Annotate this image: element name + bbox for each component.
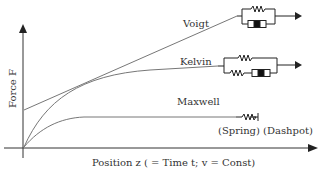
maxwell-label: Maxwell [177,96,220,107]
y-axis-arrow-icon [19,24,27,33]
x-axis [4,144,318,152]
x-axis-label: Position z ( = Time t; v = Const) [92,157,255,168]
viscoelastic-models-diagram: Voigt Kelvin Maxwell (Spring) (Dashpot) … [0,0,330,170]
y-axis-label: Force F [7,69,18,108]
kelvin-label: Kelvin [180,56,212,67]
voigt-label: Voigt [182,18,209,29]
maxwell-model-icon [236,113,258,121]
kelvin-model-icon [218,55,302,77]
maxwell-caption: (Spring) (Dashpot) [218,125,313,136]
voigt-model-icon [237,6,302,28]
y-axis [19,24,27,158]
x-axis-arrow-icon [308,144,318,152]
maxwell-curve [24,117,236,147]
